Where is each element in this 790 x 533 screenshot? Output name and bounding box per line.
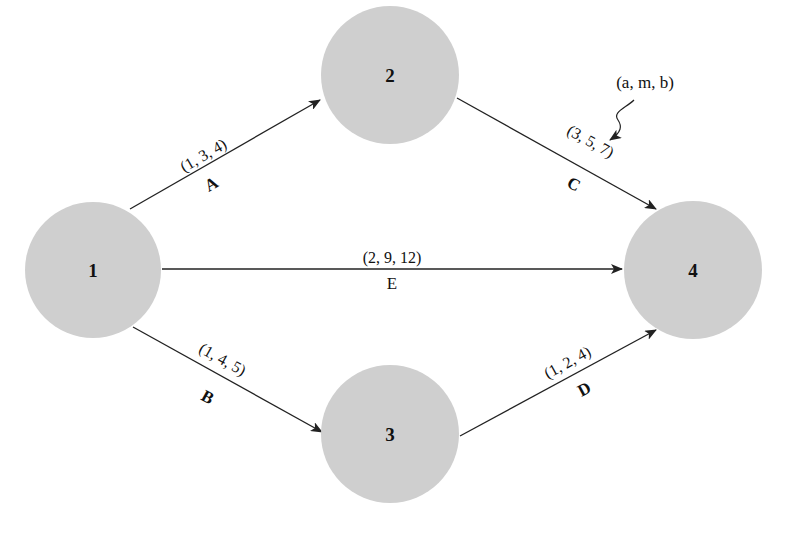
edge-e-params: (2, 9, 12): [363, 249, 422, 267]
edge-e: (2, 9, 12) E: [162, 249, 622, 293]
edge-c: (3, 5, 7) C: [457, 98, 656, 209]
node-4-label: 4: [688, 260, 698, 281]
edge-e-label: E: [387, 274, 397, 293]
node-3: 3: [321, 365, 459, 503]
node-3-label: 3: [385, 424, 395, 445]
annotation-amb: (a, m, b): [610, 73, 674, 140]
node-2-label: 2: [385, 65, 395, 86]
edge-d-label: D: [574, 378, 594, 401]
pert-network-diagram: (1, 3, 4) A (1, 4, 5) B (3, 5, 7) C (1, …: [0, 0, 790, 533]
node-2: 2: [321, 6, 459, 144]
edge-b-params: (1, 4, 5): [196, 339, 249, 379]
edge-a: (1, 3, 4) A: [130, 100, 320, 209]
squiggle-arrow-icon: [610, 100, 634, 140]
edge-b: (1, 4, 5) B: [133, 327, 322, 432]
edge-d: (1, 2, 4) D: [460, 330, 656, 436]
edge-c-params: (3, 5, 7): [564, 121, 617, 161]
edge-c-label: C: [564, 173, 584, 196]
node-1: 1: [25, 202, 161, 338]
annotation-text: (a, m, b): [616, 73, 674, 92]
edge-b-label: B: [198, 386, 217, 408]
edge-a-label: A: [201, 173, 222, 196]
edge-d-params: (1, 2, 4): [541, 343, 594, 383]
node-1-label: 1: [88, 260, 98, 281]
node-4: 4: [624, 201, 762, 339]
